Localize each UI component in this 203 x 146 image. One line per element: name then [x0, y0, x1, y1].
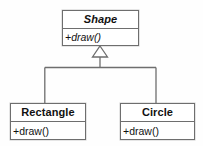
class-member-rectangle-draw: +draw() [11, 122, 85, 140]
class-member-circle-draw: +draw() [121, 122, 194, 140]
inheritance-triangle-icon [93, 46, 108, 57]
class-box-rectangle[interactable]: Rectangle +draw() [10, 103, 86, 140]
diagram-canvas: Shape +draw() Rectangle +draw() Circle +… [0, 0, 203, 146]
class-box-circle[interactable]: Circle +draw() [120, 103, 195, 140]
class-box-shape[interactable]: Shape +draw() [62, 10, 139, 46]
class-member-shape-draw: +draw() [63, 29, 138, 46]
class-name-rectangle: Rectangle [11, 104, 85, 122]
class-name-circle: Circle [121, 104, 194, 122]
class-name-shape: Shape [63, 11, 138, 29]
